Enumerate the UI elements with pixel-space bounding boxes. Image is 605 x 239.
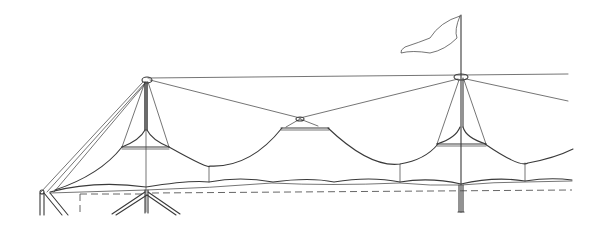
left-backstay-3 [54, 84, 145, 192]
membrane-edge-right [485, 144, 573, 164]
top-ridge-cable [148, 74, 568, 78]
far-right-diagonal-cable [466, 79, 568, 101]
membrane-edge-right-middle [328, 128, 438, 164]
tensile-structure-elevation [0, 0, 605, 239]
mast-base-post [145, 190, 148, 213]
left-backstay-1 [41, 82, 143, 192]
ground-dashed-line [80, 190, 572, 194]
left-spreader-arc-right [147, 130, 169, 147]
lower-membrane-lower [50, 181, 572, 193]
flag-icon [401, 16, 460, 53]
membrane-edge-left-middle [169, 128, 282, 167]
right-spreader-arc-left [437, 127, 460, 144]
mast-base-strut-right [147, 192, 180, 215]
center-node-left-strut [286, 119, 300, 127]
right-spreader-arc-right [463, 127, 486, 144]
left-diagonal-cable [150, 80, 300, 118]
mast-base-strut-left [112, 192, 147, 215]
right-diagonal-cable [300, 79, 458, 118]
left-mast-stay-right [148, 82, 169, 147]
left-base-post [40, 193, 44, 215]
membrane-edge-left [55, 147, 122, 190]
left-spreader-arc-left [122, 130, 145, 147]
left-backstay-2 [47, 84, 144, 192]
lower-membrane-upper [50, 179, 572, 192]
